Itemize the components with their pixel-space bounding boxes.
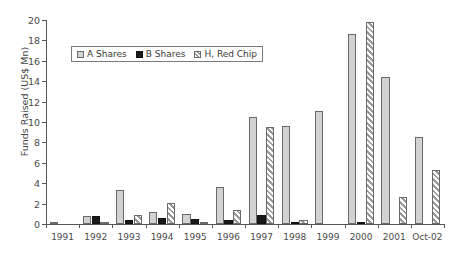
legend-label-h-red-chip: H, Red Chip	[204, 49, 257, 59]
x-tick	[146, 224, 147, 228]
y-tick-label-12: 12	[0, 102, 40, 103]
y-tick-label-16: 16	[0, 61, 40, 62]
legend-label-a-shares: A Shares	[87, 49, 127, 59]
x-tick	[112, 224, 113, 228]
x-tick-label-2000: 2000	[345, 232, 378, 242]
x-tick-label-1995: 1995	[179, 232, 212, 242]
bar-1992-h-red-chip	[100, 222, 108, 224]
bar-2000-b-shares	[357, 222, 365, 224]
x-tick-label-1992: 1992	[79, 232, 112, 242]
x-tick-label-Oct-02: Oct-02	[411, 232, 444, 242]
bar-1996-h-red-chip	[233, 210, 241, 224]
y-tick	[42, 102, 46, 103]
y-tick	[42, 81, 46, 82]
x-tick	[444, 224, 445, 228]
legend-item-h-red-chip: H, Red Chip	[194, 49, 257, 59]
bar-1997-b-shares	[257, 215, 265, 224]
y-tick	[42, 61, 46, 62]
bar-1995-a-shares	[182, 214, 190, 224]
bar-1991-a-shares	[50, 222, 58, 224]
legend-item-a-shares: A Shares	[77, 49, 127, 59]
legend-swatch-icon-h-red-chip	[194, 51, 201, 58]
x-tick-label-1999: 1999	[311, 232, 344, 242]
x-tick	[79, 224, 80, 228]
chart-legend: A Shares B Shares H, Red Chip	[71, 46, 263, 62]
bar-oct-02-a-shares	[415, 137, 423, 224]
y-tick	[42, 142, 46, 143]
bar-2001-a-shares	[381, 77, 389, 224]
bar-2000-a-shares	[348, 34, 356, 224]
y-tick-label-0: 0	[0, 224, 40, 225]
bar-2000-h-red-chip	[366, 22, 374, 224]
bar-1994-a-shares	[149, 212, 157, 224]
y-tick-label-14: 14	[0, 81, 40, 82]
y-tick	[42, 163, 46, 164]
y-tick-label-20: 20	[0, 20, 40, 21]
y-tick-label-6: 6	[0, 163, 40, 164]
bar-1993-a-shares	[116, 190, 124, 224]
bar-1993-b-shares	[125, 220, 133, 224]
x-tick-label-1998: 1998	[278, 232, 311, 242]
x-tick-label-1997: 1997	[245, 232, 278, 242]
bar-1992-a-shares	[83, 216, 91, 224]
bar-1995-b-shares	[191, 219, 199, 224]
y-tick	[42, 20, 46, 21]
y-tick-label-4: 4	[0, 183, 40, 184]
bar-1995-h-red-chip	[200, 222, 208, 224]
legend-swatch-icon-a-shares	[77, 51, 84, 58]
x-tick	[311, 224, 312, 228]
y-tick	[42, 122, 46, 123]
legend-swatch-icon-b-shares	[136, 51, 143, 58]
x-tick	[179, 224, 180, 228]
x-tick	[345, 224, 346, 228]
bar-1992-b-shares	[92, 216, 100, 224]
bar-1993-h-red-chip	[134, 215, 142, 224]
x-tick-label-1993: 1993	[112, 232, 145, 242]
chart-container: Funds Raised (US$ Mn) 02468101214161820 …	[0, 0, 449, 256]
bar-1998-b-shares	[291, 222, 299, 224]
bar-1996-b-shares	[224, 220, 232, 224]
x-tick	[212, 224, 213, 228]
y-tick	[42, 183, 46, 184]
bar-1999-a-shares	[315, 111, 323, 224]
bar-1998-a-shares	[282, 126, 290, 224]
bar-1994-h-red-chip	[167, 203, 175, 224]
bar-1996-a-shares	[216, 187, 224, 224]
x-tick	[411, 224, 412, 228]
bar-1997-h-red-chip	[266, 127, 274, 224]
x-tick	[278, 224, 279, 228]
y-tick	[42, 40, 46, 41]
x-tick-label-1994: 1994	[146, 232, 179, 242]
bar-oct-02-h-red-chip	[432, 170, 440, 224]
figure-caption	[10, 249, 440, 256]
bar-1998-h-red-chip	[299, 220, 307, 224]
bar-2001-h-red-chip	[399, 197, 407, 224]
legend-label-b-shares: B Shares	[146, 49, 186, 59]
x-tick-label-2001: 2001	[378, 232, 411, 242]
x-tick-label-1996: 1996	[212, 232, 245, 242]
x-tick	[46, 224, 47, 228]
y-tick-label-8: 8	[0, 142, 40, 143]
y-tick-label-10: 10	[0, 122, 40, 123]
y-tick-label-18: 18	[0, 40, 40, 41]
y-tick-label-2: 2	[0, 204, 40, 205]
bar-1997-a-shares	[249, 117, 257, 224]
bar-1994-b-shares	[158, 218, 166, 224]
x-tick	[378, 224, 379, 228]
y-axis-line	[46, 20, 47, 224]
y-tick	[42, 204, 46, 205]
x-tick-label-1991: 1991	[46, 232, 79, 242]
x-tick	[245, 224, 246, 228]
legend-item-b-shares: B Shares	[136, 49, 186, 59]
